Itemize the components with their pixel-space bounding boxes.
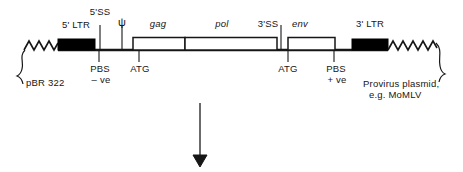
label-pbs-minus-line1: PBS [90,63,111,74]
label-pbs-plus: PBS + ve [325,63,346,85]
label-pbr322: pBR 322 [26,77,64,88]
pbr322-bracket-left [17,50,25,84]
pbr322-squiggle-right [388,41,437,50]
segment-box-gag [133,38,185,51]
label-5ss: 5'SS [90,6,111,17]
label-pbs-plus-line1: PBS [325,63,346,74]
pbr322-squiggle-left [24,41,58,50]
caption-line2: e.g. MoMLV [363,89,439,100]
label-env: env [292,18,308,29]
label-atg-left: ATG [130,63,149,74]
label-pbs-plus-line2: + ve [325,74,346,85]
label-psi: ψ [118,17,126,28]
label-pbs-minus-line2: – ve [90,74,111,85]
label-atg-right: ATG [278,63,297,74]
pbr322-bracket-right [436,43,445,82]
label-3-ltr: 3' LTR [356,18,384,29]
label-pbs-minus: PBS – ve [90,63,111,85]
label-5-ltr: 5' LTR [62,19,90,30]
segment-box-env [288,38,335,51]
segment-box-5-ltr [58,39,95,50]
provirus-plasmid-diagram: 5'SS 5' LTR ψ gag pol 3'SS env 3' LTR PB… [0,0,463,172]
segment-box-pol [185,38,277,51]
label-pol: pol [215,18,228,29]
caption-provirus-plasmid: Provirus plasmid, e.g. MoMLV [363,78,439,100]
caption-line1: Provirus plasmid, [363,78,439,89]
label-3ss: 3'SS [258,18,279,29]
process-arrow-head [193,155,207,167]
label-gag: gag [150,18,166,29]
segment-box-3-ltr [352,39,388,50]
